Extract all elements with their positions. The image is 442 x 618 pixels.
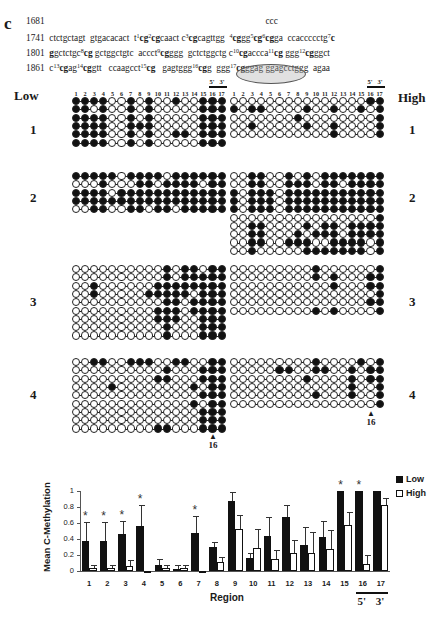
cpg-number: 12 (330, 90, 339, 97)
methylated-cpg-dot (163, 205, 171, 213)
unmethylated-cpg-dot (266, 172, 274, 180)
unmethylated-cpg-dot (339, 180, 347, 188)
sequence-text: ctctgctagt gtgacacact t1cg2cgcaact c3cgc… (49, 33, 335, 43)
clone-row (72, 138, 227, 146)
unmethylated-cpg-dot (72, 416, 80, 424)
error-bar-cap (284, 505, 290, 506)
methylated-cpg-dot (72, 172, 80, 180)
methylated-cpg-dot (321, 197, 329, 205)
unmethylated-cpg-dot (285, 97, 293, 105)
unmethylated-cpg-dot (72, 358, 80, 366)
unmethylated-cpg-dot (257, 307, 265, 315)
unmethylated-cpg-dot (81, 205, 89, 213)
unmethylated-cpg-dot (294, 214, 302, 222)
unmethylated-cpg-dot (285, 122, 293, 130)
methylated-cpg-dot (199, 139, 207, 147)
unmethylated-cpg-dot (90, 273, 98, 281)
methylated-cpg-dot (145, 197, 153, 205)
methylated-cpg-dot (172, 172, 180, 180)
methylated-cpg-dot (376, 383, 384, 391)
unmethylated-cpg-dot (172, 416, 180, 424)
highlight-ellipse (236, 64, 306, 84)
methylated-cpg-dot (218, 358, 226, 366)
error-bar (287, 505, 288, 517)
unmethylated-cpg-dot (312, 172, 320, 180)
low-bar-region-8 (209, 547, 217, 571)
low-bar-region-1 (82, 541, 90, 571)
x-axis-label: Region (210, 592, 244, 603)
clone-row (72, 399, 227, 407)
methylated-cpg-dot (348, 222, 356, 230)
methylated-cpg-dot (357, 105, 365, 113)
unmethylated-cpg-dot (275, 230, 283, 238)
methylated-cpg-dot (303, 222, 311, 230)
unmethylated-cpg-dot (366, 265, 374, 273)
methylated-cpg-dot (163, 265, 171, 273)
unmethylated-cpg-dot (108, 265, 116, 273)
unmethylated-cpg-dot (172, 391, 180, 399)
methylated-cpg-dot (208, 391, 216, 399)
unmethylated-cpg-dot (81, 298, 89, 306)
x-axis-line (80, 571, 390, 572)
unmethylated-cpg-dot (117, 358, 125, 366)
methylated-cpg-dot (257, 189, 265, 197)
unmethylated-cpg-dot (275, 122, 283, 130)
x-tick-label: 15 (334, 579, 354, 588)
methylated-cpg-dot (303, 238, 311, 246)
unmethylated-cpg-dot (163, 130, 171, 138)
methylated-cpg-dot (90, 197, 98, 205)
x-tick-label: 10 (243, 579, 263, 588)
unmethylated-cpg-dot (357, 383, 365, 391)
unmethylated-cpg-dot (127, 391, 135, 399)
methylated-cpg-dot (208, 189, 216, 197)
unmethylated-cpg-dot (257, 391, 265, 399)
unmethylated-cpg-dot (348, 358, 356, 366)
high-bar-region-17 (381, 505, 389, 571)
unmethylated-cpg-dot (312, 238, 320, 246)
legend-label: Low (406, 474, 424, 484)
unmethylated-cpg-dot (90, 298, 98, 306)
methylated-cpg-dot (136, 358, 144, 366)
unmethylated-cpg-dot (285, 358, 293, 366)
unmethylated-cpg-dot (154, 331, 162, 339)
methylated-cpg-dot (190, 298, 198, 306)
unmethylated-cpg-dot (285, 290, 293, 298)
methylated-cpg-dot (208, 122, 216, 130)
methylated-cpg-dot (266, 197, 274, 205)
unmethylated-cpg-dot (108, 273, 116, 281)
methylated-cpg-dot (321, 230, 329, 238)
methylated-cpg-dot (190, 307, 198, 315)
unmethylated-cpg-dot (81, 315, 89, 323)
unmethylated-cpg-dot (127, 282, 135, 290)
methylated-cpg-dot (208, 180, 216, 188)
unmethylated-cpg-dot (366, 122, 374, 130)
methylated-cpg-dot (154, 290, 162, 298)
methylated-cpg-dot (108, 172, 116, 180)
unmethylated-cpg-dot (163, 122, 171, 130)
clone-row (230, 383, 385, 391)
unmethylated-cpg-dot (266, 97, 274, 105)
unmethylated-cpg-dot (181, 122, 189, 130)
unmethylated-cpg-dot (127, 408, 135, 416)
y-tick-mark (77, 555, 80, 556)
methylated-cpg-dot (136, 189, 144, 197)
error-bar (331, 530, 332, 549)
methylated-cpg-dot (376, 400, 384, 408)
unmethylated-cpg-dot (303, 265, 311, 273)
unmethylated-cpg-dot (72, 383, 80, 391)
high-bar-region-12 (290, 553, 298, 571)
unmethylated-cpg-dot (266, 230, 274, 238)
unmethylated-cpg-dot (248, 290, 256, 298)
methylated-cpg-dot (218, 391, 226, 399)
unmethylated-cpg-dot (81, 290, 89, 298)
unmethylated-cpg-dot (154, 105, 162, 113)
high-bar-region-8 (217, 562, 225, 571)
methylated-cpg-dot (218, 114, 226, 122)
clone-row (230, 375, 385, 383)
methylated-cpg-dot (218, 205, 226, 213)
x-tick-label: 1 (79, 579, 99, 588)
error-bar (276, 550, 277, 559)
high-bar-region-5 (162, 568, 170, 571)
methylated-cpg-dot (163, 366, 171, 374)
unmethylated-cpg-dot (230, 400, 238, 408)
